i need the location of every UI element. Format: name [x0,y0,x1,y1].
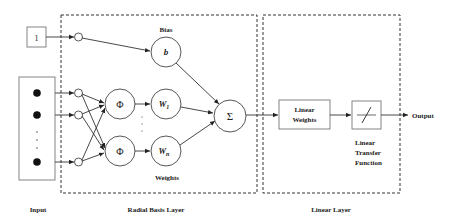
rbf-network-diagram: 1 Φ Φ W1 [0,0,455,223]
ellipsis-dot [36,131,37,132]
weights-label: Weights [155,174,179,182]
ellipsis-dot [36,139,37,140]
input-node-1 [75,89,83,97]
connection [82,153,104,161]
input-node-2 [75,111,83,119]
phi-unit-n: Φ [105,136,135,166]
summation-unit: Σ [214,100,246,132]
input-vector-box [19,77,55,180]
connection [82,108,105,160]
input-dot-n [33,158,41,166]
phi-symbol: Φ [116,146,123,157]
phi-unit-1: Φ [105,89,135,119]
transfer-label-3: Function [355,159,382,167]
bias-input-value: 1 [35,34,39,43]
ellipsis-dot [141,130,142,131]
ellipsis-dot [141,116,142,117]
input-node-n [75,158,83,166]
transfer-label-2: Transfer [355,149,381,157]
wn-to-sum-arrow [180,121,215,145]
sigma-symbol: Σ [227,110,233,122]
ellipsis-dot [36,147,37,148]
connection [82,105,104,114]
linear-weights-box: Linear Weights [279,100,330,129]
bias-input-node [75,33,83,41]
bias-to-sum-arrow [176,63,219,104]
linear-weights-label-2: Weights [292,116,316,124]
linear-weights-label-1: Linear [294,106,314,114]
weight-unit-1: W1 [151,89,181,119]
input-dot-1 [33,89,41,97]
phi-symbol: Φ [116,99,123,110]
linear-layer-label: Linear Layer [311,206,351,214]
w1-to-sum-arrow [181,107,213,113]
output-label: Output [412,112,434,120]
bias-input-box: 1 [27,27,46,47]
weight-unit-n: Wn [151,136,181,166]
bias-arrow [82,38,150,51]
bias-label: Bias [160,26,173,34]
linear-transfer-box [352,101,381,129]
weight-1-subscript: 1 [166,104,169,110]
bias-symbol: b [164,47,169,57]
input-section-label: Input [30,206,47,214]
radial-basis-layer-label: Radial Basis Layer [128,206,185,214]
transfer-label-1: Linear [355,139,375,147]
ellipsis-dot [141,123,142,124]
input-dot-2 [33,111,41,119]
bias-unit: b [151,37,181,67]
